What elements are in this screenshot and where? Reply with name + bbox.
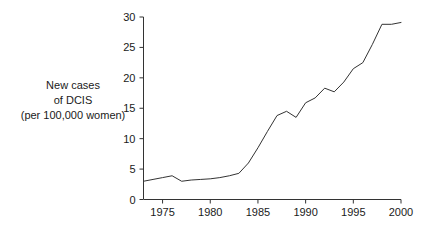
x-tick-label: 2000: [389, 206, 413, 218]
y-tick-label: 10: [123, 133, 135, 145]
y-tick-label: 20: [123, 72, 135, 84]
y-tick-label: 0: [129, 194, 135, 206]
y-tick-label: 30: [123, 11, 135, 23]
y-axis: 051015202530: [123, 11, 143, 206]
y-tick-label: 15: [123, 102, 135, 114]
x-tick-label: 1975: [150, 206, 174, 218]
y-tick-label: 25: [123, 41, 135, 53]
x-tick-marks: [163, 200, 401, 204]
y-tick-label: 5: [129, 163, 135, 175]
data-series-line: [144, 22, 402, 181]
x-tick-label: 1995: [341, 206, 365, 218]
y-tick-marks: [140, 17, 144, 200]
dcis-incidence-chart: New cases of DCIS (per 100,000 women) 05…: [0, 0, 425, 231]
plot-area: 051015202530 197519801985199019952000: [0, 0, 425, 231]
x-axis: 197519801985199019952000: [144, 200, 414, 218]
y-tick-labels: 051015202530: [123, 11, 135, 206]
x-tick-label: 1985: [246, 206, 270, 218]
x-tick-labels: 197519801985199019952000: [150, 206, 413, 218]
x-tick-label: 1980: [198, 206, 222, 218]
x-tick-label: 1990: [293, 206, 317, 218]
